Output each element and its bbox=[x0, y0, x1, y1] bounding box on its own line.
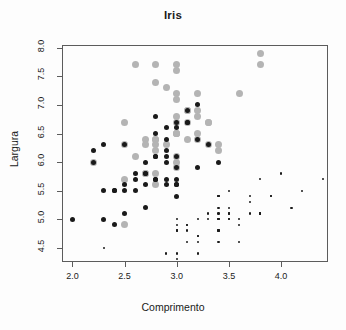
y-tick-label: 5.0 bbox=[36, 204, 46, 230]
y-tick-label: 4.5 bbox=[36, 233, 46, 259]
scatter-point-setosa bbox=[207, 212, 209, 214]
scatter-point-versicolor bbox=[143, 171, 148, 176]
scatter-point-setosa bbox=[259, 178, 261, 180]
x-tick-mark bbox=[281, 262, 282, 267]
scatter-point-versicolor bbox=[185, 120, 190, 125]
scatter-point-setosa bbox=[270, 195, 272, 197]
scatter-point-virginica bbox=[173, 67, 180, 74]
y-tick-label: 8.0 bbox=[36, 33, 46, 59]
scatter-point-virginica bbox=[132, 61, 139, 68]
scatter-point-virginica bbox=[152, 79, 159, 86]
scatter-point-virginica bbox=[173, 90, 180, 97]
scatter-point-setosa bbox=[186, 241, 188, 243]
scatter-point-versicolor bbox=[122, 182, 127, 187]
scatter-points-layer bbox=[62, 45, 328, 262]
scatter-point-versicolor bbox=[164, 148, 169, 153]
scatter-point-setosa bbox=[217, 241, 219, 243]
scatter-point-versicolor bbox=[143, 182, 148, 187]
scatter-point-setosa bbox=[228, 218, 230, 220]
scatter-point-versicolor bbox=[133, 177, 138, 182]
scatter-point-versicolor bbox=[195, 165, 200, 170]
scatter-point-setosa bbox=[186, 229, 188, 231]
scatter-point-virginica bbox=[152, 61, 159, 68]
x-tick-label: 4.0 bbox=[266, 271, 296, 281]
scatter-point-versicolor bbox=[143, 205, 148, 210]
scatter-point-setosa bbox=[301, 190, 303, 192]
scatter-point-versicolor bbox=[164, 177, 169, 182]
scatter-point-setosa bbox=[228, 190, 230, 192]
x-axis-label: Comprimento bbox=[0, 301, 346, 313]
scatter-point-virginica bbox=[184, 136, 191, 143]
x-tick-label: 2.5 bbox=[110, 271, 140, 281]
scatter-point-setosa bbox=[165, 252, 167, 254]
scatter-point-setosa bbox=[322, 178, 324, 180]
scatter-point-setosa bbox=[176, 252, 178, 254]
scatter-point-virginica bbox=[152, 170, 159, 177]
scatter-point-setosa bbox=[217, 229, 219, 231]
scatter-point-setosa bbox=[259, 212, 261, 214]
scatter-point-versicolor bbox=[91, 148, 96, 153]
scatter-point-setosa bbox=[197, 235, 199, 237]
x-tick-mark bbox=[229, 262, 230, 267]
scatter-point-versicolor bbox=[164, 154, 169, 159]
scatter-point-setosa bbox=[238, 218, 240, 220]
scatter-point-versicolor bbox=[153, 154, 158, 159]
y-tick-label: 7.5 bbox=[36, 61, 46, 87]
scatter-point-setosa bbox=[228, 212, 230, 214]
scatter-point-setosa bbox=[176, 218, 178, 220]
scatter-point-setosa bbox=[197, 241, 199, 243]
scatter-point-setosa bbox=[186, 224, 188, 226]
scatter-point-setosa bbox=[238, 224, 240, 226]
scatter-point-versicolor bbox=[185, 108, 190, 113]
scatter-point-versicolor bbox=[164, 182, 169, 187]
scatter-point-setosa bbox=[290, 207, 292, 209]
scatter-point-setosa bbox=[176, 224, 178, 226]
scatter-point-virginica bbox=[173, 130, 180, 137]
scatter-point-versicolor bbox=[164, 125, 169, 130]
scatter-point-virginica bbox=[194, 90, 201, 97]
scatter-point-virginica bbox=[194, 113, 201, 120]
x-tick-label: 3.0 bbox=[162, 271, 192, 281]
scatter-point-virginica bbox=[132, 153, 139, 160]
scatter-point-versicolor bbox=[174, 120, 179, 125]
scatter-point-versicolor bbox=[153, 131, 158, 136]
y-tick-label: 5.5 bbox=[36, 176, 46, 202]
scatter-point-setosa bbox=[176, 229, 178, 231]
scatter-point-versicolor bbox=[164, 160, 169, 165]
scatter-point-setosa bbox=[207, 218, 209, 220]
page-title: Iris bbox=[0, 9, 346, 21]
scatter-point-virginica bbox=[205, 119, 212, 126]
y-tick-label: 6.0 bbox=[36, 147, 46, 173]
scatter-point-virginica bbox=[215, 147, 222, 154]
scatter-point-virginica bbox=[142, 141, 149, 148]
scatter-point-versicolor bbox=[174, 194, 179, 199]
scatter-point-setosa bbox=[217, 207, 219, 209]
scatter-point-setosa bbox=[197, 218, 199, 220]
scatter-point-setosa bbox=[103, 247, 105, 249]
scatter-point-versicolor bbox=[101, 217, 106, 222]
scatter-point-versicolor bbox=[112, 188, 117, 193]
scatter-point-setosa bbox=[217, 212, 219, 214]
scatter-point-setosa bbox=[249, 212, 251, 214]
scatter-point-versicolor bbox=[164, 137, 169, 142]
scatter-point-setosa bbox=[249, 201, 251, 203]
x-tick-mark bbox=[72, 262, 73, 267]
scatter-point-virginica bbox=[257, 61, 264, 68]
scatter-point-versicolor bbox=[174, 125, 179, 130]
scatter-point-versicolor bbox=[133, 188, 138, 193]
scatter-point-versicolor bbox=[101, 188, 106, 193]
scatter-point-setosa bbox=[217, 218, 219, 220]
scatter-point-virginica bbox=[163, 84, 170, 91]
scatter-point-versicolor bbox=[101, 142, 106, 147]
scatter-point-versicolor bbox=[195, 137, 200, 142]
scatter-point-versicolor bbox=[216, 160, 221, 165]
x-tick-mark bbox=[125, 262, 126, 267]
scatter-point-versicolor bbox=[122, 211, 127, 216]
scatter-point-versicolor bbox=[174, 177, 179, 182]
scatter-point-virginica bbox=[236, 90, 243, 97]
scatter-point-setosa bbox=[176, 258, 178, 260]
x-tick-label: 2.0 bbox=[57, 271, 87, 281]
scatter-point-virginica bbox=[152, 141, 159, 148]
scatter-point-virginica bbox=[152, 181, 159, 188]
scatter-point-setosa bbox=[238, 241, 240, 243]
